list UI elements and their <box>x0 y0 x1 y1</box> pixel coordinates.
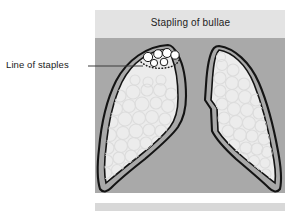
bulla <box>154 50 163 59</box>
bulla <box>160 58 168 66</box>
bulla <box>163 49 172 58</box>
diagram-canvas <box>0 0 297 211</box>
bulla <box>171 51 179 59</box>
annotation-label: Line of staples <box>6 59 69 70</box>
bulla <box>150 59 157 66</box>
figure-root: Stapling of bullae Line of staples <box>0 0 297 211</box>
next-panel-sliver <box>95 203 285 211</box>
panel-title: Stapling of bullae <box>96 17 285 28</box>
